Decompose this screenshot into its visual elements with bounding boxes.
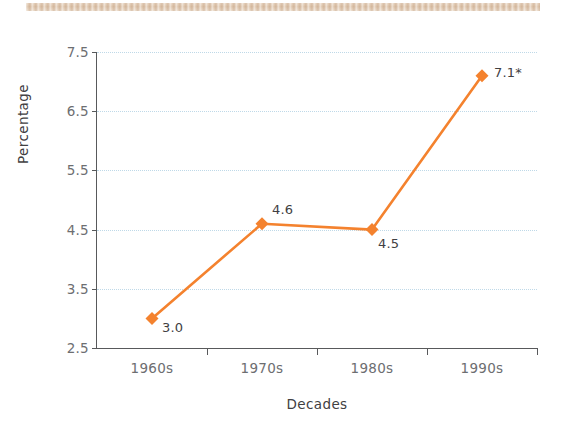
x-axis-tick [537, 348, 538, 355]
plot-area: 2.53.54.55.56.57.5 1960s1970s1980s1990s … [97, 52, 537, 348]
y-axis-tick-label: 7.5 [67, 44, 89, 60]
x-axis-tick-label: 1960s [131, 360, 174, 376]
line-chart: Percentage 2.53.54.55.56.57.5 1960s1970s… [0, 0, 566, 429]
series-markers [146, 69, 489, 325]
y-axis-tick-label: 3.5 [67, 281, 89, 297]
data-series-layer [97, 52, 537, 348]
data-point-label: 7.1* [494, 65, 522, 80]
x-axis-title: Decades [97, 396, 537, 412]
y-axis-tick-label: 5.5 [67, 162, 89, 178]
data-point-label: 4.5 [378, 236, 399, 251]
x-axis-tick-label: 1970s [241, 360, 284, 376]
y-axis-tick-label: 2.5 [67, 340, 89, 356]
data-point-label: 3.0 [162, 320, 183, 335]
x-axis-tick [207, 348, 208, 355]
x-axis-tick [317, 348, 318, 355]
series-line [152, 76, 482, 319]
y-axis-tick [92, 348, 97, 349]
x-axis-tick [427, 348, 428, 355]
y-axis-tick-label: 4.5 [67, 222, 89, 238]
data-point-label: 4.6 [272, 202, 293, 217]
y-axis-title: Percentage [15, 142, 31, 164]
x-axis-tick-label: 1980s [351, 360, 394, 376]
y-axis-tick-label: 6.5 [67, 103, 89, 119]
x-axis-tick-label: 1990s [461, 360, 504, 376]
